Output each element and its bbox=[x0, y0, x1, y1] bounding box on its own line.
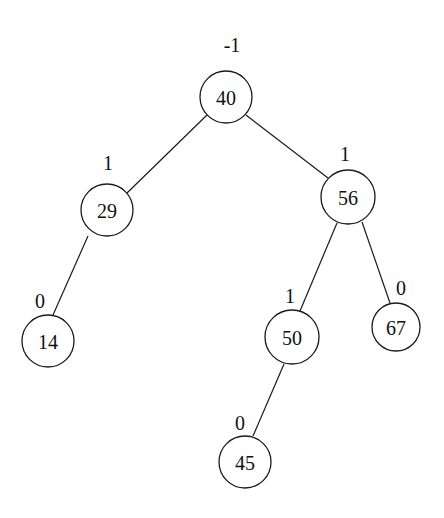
balance-factor: 1 bbox=[340, 143, 350, 165]
edge-n29-n14 bbox=[53, 236, 88, 315]
tree-node-50: 501 bbox=[265, 285, 319, 364]
edge-n50-n45 bbox=[253, 364, 284, 436]
tree-nodes: 40-1291561140501670450 bbox=[22, 34, 420, 488]
balance-factor: 1 bbox=[103, 152, 113, 174]
node-value: 50 bbox=[282, 327, 302, 349]
edge-n56-n50 bbox=[300, 223, 337, 311]
node-value: 56 bbox=[338, 187, 358, 209]
balance-factor: 1 bbox=[285, 285, 295, 307]
tree-node-14: 140 bbox=[22, 290, 74, 367]
node-value: 29 bbox=[97, 200, 117, 222]
balance-factor: 0 bbox=[396, 277, 406, 299]
node-value: 14 bbox=[38, 331, 58, 353]
edge-n56-n67 bbox=[362, 222, 390, 303]
node-value: 45 bbox=[235, 452, 255, 474]
edge-n40-n29 bbox=[127, 115, 207, 193]
balance-factor: -1 bbox=[224, 34, 241, 56]
tree-node-56: 561 bbox=[321, 143, 375, 224]
avl-tree-diagram: 40-1291561140501670450 bbox=[0, 0, 444, 518]
balance-factor: 0 bbox=[235, 412, 245, 434]
edge-n40-n56 bbox=[246, 115, 328, 178]
node-value: 40 bbox=[216, 87, 236, 109]
node-value: 67 bbox=[386, 317, 406, 339]
tree-node-67: 670 bbox=[372, 277, 420, 351]
tree-node-29: 291 bbox=[81, 152, 133, 236]
tree-node-45: 450 bbox=[219, 412, 271, 488]
balance-factor: 0 bbox=[35, 290, 45, 312]
tree-node-40: 40-1 bbox=[200, 34, 252, 123]
